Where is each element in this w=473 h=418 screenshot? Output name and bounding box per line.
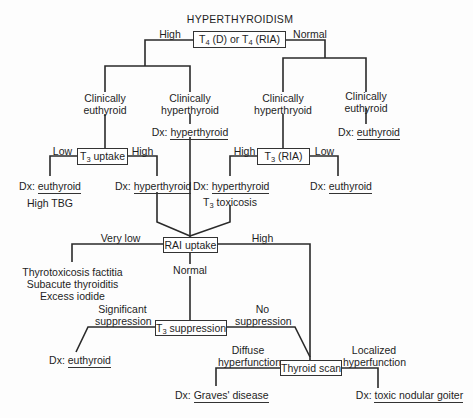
edge-label-diffuse-hyperfunction: Diffusehyperfunction — [218, 344, 278, 368]
edge-label-t3r-high: High — [232, 145, 257, 157]
t3-ria-box: T3 (RIA) — [257, 148, 310, 165]
dx-left-hyperthyroid: Dx: hyperthyroid — [150, 126, 230, 138]
state-right-euthyroid: Clinicallyeuthyroid — [336, 90, 396, 114]
dx-right-euthyroid: Dx: euthyroid — [334, 126, 404, 138]
diagram-title: HYPERTHYROIDISM — [180, 13, 300, 25]
edge-label-t4-normal: Normal — [290, 28, 330, 40]
hyperthyroidism-flowchart: HYPERTHYROIDISM T4 (D) or T4 (RIA) High … — [0, 0, 473, 418]
thyroid-scan-box: Thyroid scan — [280, 360, 342, 376]
rai-uptake-box: RAI uptake — [163, 237, 218, 253]
edge-label-rai-very-low: Very low — [98, 232, 143, 244]
dx-graves-disease: Dx: Graves' disease — [175, 389, 265, 401]
dx-t3r-high-hyperthyroid: Dx: hyperthyroid — [193, 180, 268, 192]
edge-label-rai-normal: Normal — [172, 264, 208, 276]
dx-t3r-low-euthyroid: Dx: euthyroid — [306, 180, 376, 192]
t3-uptake-box: T3 uptake — [77, 148, 128, 165]
edge-label-t3r-low: Low — [312, 145, 337, 157]
note-t3-toxicosis: T3 toxicosis — [200, 196, 260, 208]
note-high-tbg: High TBG — [25, 197, 75, 209]
state-left-euthyroid: Clinicallyeuthyroid — [75, 92, 135, 116]
dx-t3u-high-hyperthyroid: Dx: hyperthyroid — [115, 180, 190, 192]
t3-suppression-box: T3 suppression — [155, 320, 227, 336]
dx-sig-supp-euthyroid: Dx: euthyroid — [45, 354, 115, 366]
edge-label-t3u-low: Low — [50, 145, 75, 157]
edge-label-t4-high: High — [155, 28, 185, 40]
edge-label-significant-suppression: Significantsuppression — [95, 303, 150, 327]
t4-test-box: T4 (D) or T4 (RIA) — [193, 31, 286, 48]
dx-t3u-low-euthyroid: Dx: euthyroid — [15, 180, 85, 192]
state-right-hyperthyroid: Clinicallyhyperthryoid — [248, 92, 318, 116]
dx-toxic-nodular-goiter: Dx: toxic nodular goiter — [352, 389, 467, 401]
edge-label-no-suppression: Nosuppression — [235, 303, 290, 327]
state-left-hyperthyroid: Clinicallyhyperthyroid — [155, 92, 225, 116]
edge-label-localized-hyperfunction: Localizedhyperfunction — [343, 344, 405, 368]
very-low-causes: Thyrotoxicosis factitia Subacute thyroid… — [20, 266, 125, 302]
edge-label-rai-high: High — [250, 232, 275, 244]
edge-label-t3u-high: High — [130, 145, 155, 157]
